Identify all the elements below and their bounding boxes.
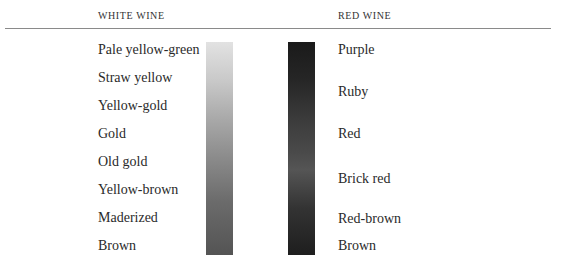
white-wine-color-gradient-bar	[206, 42, 233, 255]
white-label: Maderized	[98, 210, 158, 226]
white-label: Straw yellow	[98, 70, 172, 86]
white-label: Yellow-gold	[98, 98, 167, 114]
red-label: Purple	[338, 42, 375, 58]
red-wine-color-gradient-bar	[288, 42, 315, 255]
red-wine-header: RED WINE	[338, 10, 391, 21]
white-wine-header: WHITE WINE	[98, 10, 165, 21]
red-label: Red-brown	[338, 211, 401, 227]
white-label: Gold	[98, 126, 126, 142]
white-label: Brown	[98, 238, 136, 254]
red-label: Ruby	[338, 84, 368, 100]
white-label: Pale yellow-green	[98, 42, 199, 58]
header-divider	[5, 28, 551, 29]
red-label: Red	[338, 126, 361, 142]
white-label: Old gold	[98, 154, 147, 170]
white-label: Yellow-brown	[98, 182, 178, 198]
red-label: Brick red	[338, 171, 390, 187]
red-label: Brown	[338, 238, 376, 254]
